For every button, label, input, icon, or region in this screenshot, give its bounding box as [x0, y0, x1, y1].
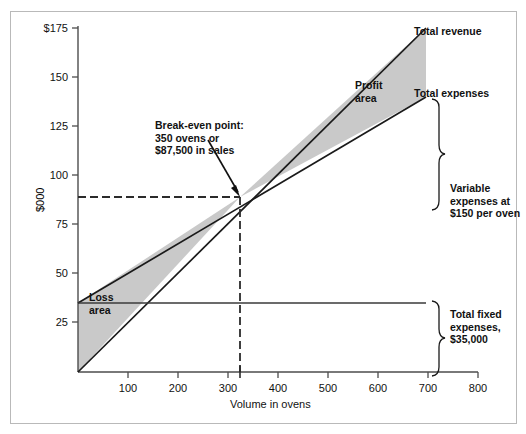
y-axis-title: $000: [34, 188, 46, 212]
chart-canvas: [0, 0, 526, 434]
variable-expenses-brace: [432, 99, 445, 210]
x-tick-label-500: 500: [308, 382, 348, 394]
y-tick-label-150: 150: [28, 71, 68, 83]
y-tick-label-175: $175: [28, 22, 68, 34]
total-expenses-line: [78, 97, 426, 303]
profit-area-shading: [240, 28, 426, 197]
variable-expenses-label: Variable expenses at $150 per oven: [450, 182, 520, 220]
x-axis-title: Volume in ovens: [230, 398, 311, 410]
x-tick-label-400: 400: [258, 382, 298, 394]
profit-area-label: Profit area: [355, 79, 382, 104]
y-tick-label-50: 50: [28, 267, 68, 279]
total-revenue-label: Total revenue: [414, 25, 482, 38]
breakeven-callout-label: Break-even point: 350 ovens or $87,500 i…: [155, 119, 244, 157]
total-expenses-label: Total expenses: [414, 87, 489, 100]
x-tick-label-600: 600: [358, 382, 398, 394]
fixed-expenses-brace: [432, 301, 445, 376]
x-tick-label-800: 800: [458, 382, 498, 394]
x-tick-label-200: 200: [158, 382, 198, 394]
y-tick-marks: [72, 28, 78, 322]
y-tick-label-75: 75: [28, 218, 68, 230]
breakeven-chart-figure: $175 150 125 100 75 50 25 $000 100 200 3…: [0, 0, 526, 434]
loss-area-label: Loss area: [89, 291, 114, 316]
x-tick-label-300: 300: [208, 382, 248, 394]
y-tick-label-125: 125: [28, 120, 68, 132]
y-tick-label-100: 100: [28, 169, 68, 181]
loss-area-shading: [78, 197, 240, 372]
x-tick-marks: [128, 372, 478, 378]
x-tick-label-100: 100: [108, 382, 148, 394]
x-tick-label-700: 700: [408, 382, 448, 394]
fixed-expenses-label: Total fixed expenses, $35,000: [450, 308, 502, 346]
y-tick-label-25: 25: [28, 316, 68, 328]
